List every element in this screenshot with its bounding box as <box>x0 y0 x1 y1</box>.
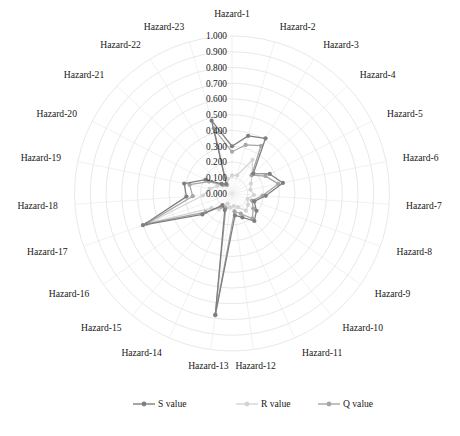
radial-tick-0.200: 0.200 <box>206 157 227 167</box>
data-point <box>244 143 248 147</box>
axis-spoke-13 <box>211 194 232 350</box>
axis-label-hazard-6: Hazard-6 <box>403 152 439 163</box>
legend-label-s-value[interactable]: S value <box>158 398 187 409</box>
legend-swatch-marker-2 <box>327 402 332 407</box>
axis-label-hazard-19: Hazard-19 <box>21 152 62 163</box>
data-point <box>223 208 227 212</box>
radial-tick-0.700: 0.700 <box>206 79 227 89</box>
radial-tick-0.900: 0.900 <box>206 47 227 57</box>
data-point <box>240 215 244 219</box>
axis-label-hazard-12: Hazard-12 <box>235 360 276 371</box>
data-point <box>263 174 267 178</box>
data-point <box>252 193 256 197</box>
data-point <box>226 202 230 206</box>
radial-tick-0.400: 0.400 <box>206 126 227 136</box>
data-point <box>230 144 234 148</box>
data-point <box>141 223 145 227</box>
legend-label-r-value[interactable]: R value <box>261 398 291 409</box>
axis-label-hazard-5: Hazard-5 <box>387 108 423 119</box>
data-point <box>236 205 240 209</box>
radar-chart: Hazard-1Hazard-2Hazard-3Hazard-4Hazard-5… <box>0 0 460 436</box>
grid-layer <box>75 36 390 351</box>
data-point <box>233 213 237 217</box>
data-point <box>182 181 186 185</box>
data-point <box>254 209 258 213</box>
axis-label-hazard-14: Hazard-14 <box>121 347 162 358</box>
chart-legend: S valueR valueQ value <box>133 398 373 409</box>
data-point <box>213 313 217 317</box>
data-point <box>201 193 205 197</box>
radial-tick-0.300: 0.300 <box>206 142 227 152</box>
data-point <box>281 181 285 185</box>
radial-tick-0.600: 0.600 <box>206 94 227 104</box>
axis-label-hazard-7: Hazard-7 <box>406 200 442 211</box>
axis-label-hazard-10: Hazard-10 <box>342 322 383 333</box>
data-point <box>239 212 243 216</box>
data-point <box>246 203 250 207</box>
data-point <box>263 136 267 140</box>
axis-label-hazard-8: Hazard-8 <box>396 246 432 257</box>
data-point <box>230 173 234 177</box>
axis-label-hazard-22: Hazard-22 <box>100 39 141 50</box>
data-point <box>232 204 236 208</box>
axis-label-hazard-3: Hazard-3 <box>323 39 359 50</box>
data-point <box>228 205 232 209</box>
radial-tick-0.500: 0.500 <box>206 110 227 120</box>
data-point <box>235 173 239 177</box>
data-point <box>251 172 255 176</box>
data-point <box>268 172 272 176</box>
data-point <box>184 195 188 199</box>
data-point <box>246 134 250 138</box>
axis-label-hazard-16: Hazard-16 <box>49 288 90 299</box>
legend-label-q-value[interactable]: Q value <box>343 398 373 409</box>
data-point <box>252 219 256 223</box>
data-point <box>200 212 204 216</box>
axis-label-hazard-23: Hazard-23 <box>144 21 185 32</box>
data-point <box>245 197 249 201</box>
axis-spoke-3 <box>232 59 314 194</box>
data-point <box>248 188 252 192</box>
data-point <box>230 150 234 154</box>
data-point <box>220 203 224 207</box>
axis-spoke-17 <box>84 194 232 247</box>
axis-label-hazard-21: Hazard-21 <box>64 69 105 80</box>
data-point <box>250 158 254 162</box>
radial-tick-0.800: 0.800 <box>206 63 227 73</box>
data-point <box>264 194 268 198</box>
radar-chart-canvas: Hazard-1Hazard-2Hazard-3Hazard-4Hazard-5… <box>0 0 460 436</box>
radial-tick-0.100: 0.100 <box>206 173 227 183</box>
axis-label-hazard-9: Hazard-9 <box>375 288 411 299</box>
legend-swatch-marker-0 <box>142 402 147 407</box>
axis-label-hazard-17: Hazard-17 <box>27 246 68 257</box>
axis-spoke-6 <box>232 161 386 193</box>
axis-label-hazard-1: Hazard-1 <box>214 8 250 19</box>
data-point <box>232 209 236 213</box>
legend-swatch-marker-1 <box>245 402 250 407</box>
radial-tick-0.000: 0.000 <box>206 189 227 199</box>
axis-label-hazard-13: Hazard-13 <box>188 360 229 371</box>
axis-label-hazard-4: Hazard-4 <box>360 69 396 80</box>
data-point <box>191 194 195 198</box>
axis-label-hazard-15: Hazard-15 <box>81 322 122 333</box>
data-point <box>252 199 256 203</box>
axis-label-hazard-2: Hazard-2 <box>280 21 316 32</box>
data-point <box>244 209 248 213</box>
radial-tick-1.000: 1.000 <box>206 31 227 41</box>
axis-spoke-5 <box>232 121 372 193</box>
axis-label-hazard-18: Hazard-18 <box>17 200 58 211</box>
radial-label-layer: 1.0000.9000.8000.7000.6000.5000.4000.300… <box>206 31 227 199</box>
axis-spoke-4 <box>232 86 347 194</box>
axis-label-hazard-11: Hazard-11 <box>302 347 342 358</box>
axis-label-hazard-20: Hazard-20 <box>36 108 77 119</box>
data-point <box>249 182 253 186</box>
